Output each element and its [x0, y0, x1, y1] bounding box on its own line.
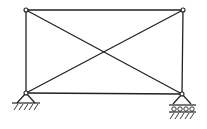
roller-icon — [172, 107, 194, 111]
node-bottom-right — [180, 92, 184, 96]
pin-support — [12, 93, 40, 110]
truss-diagram — [0, 0, 207, 129]
bottom-chord-member — [26, 93, 182, 94]
node-top-right — [181, 8, 185, 12]
node-bottom-left — [24, 91, 28, 95]
node-top-left — [24, 8, 28, 12]
roller-support — [169, 94, 196, 119]
right-post-member — [182, 10, 183, 94]
